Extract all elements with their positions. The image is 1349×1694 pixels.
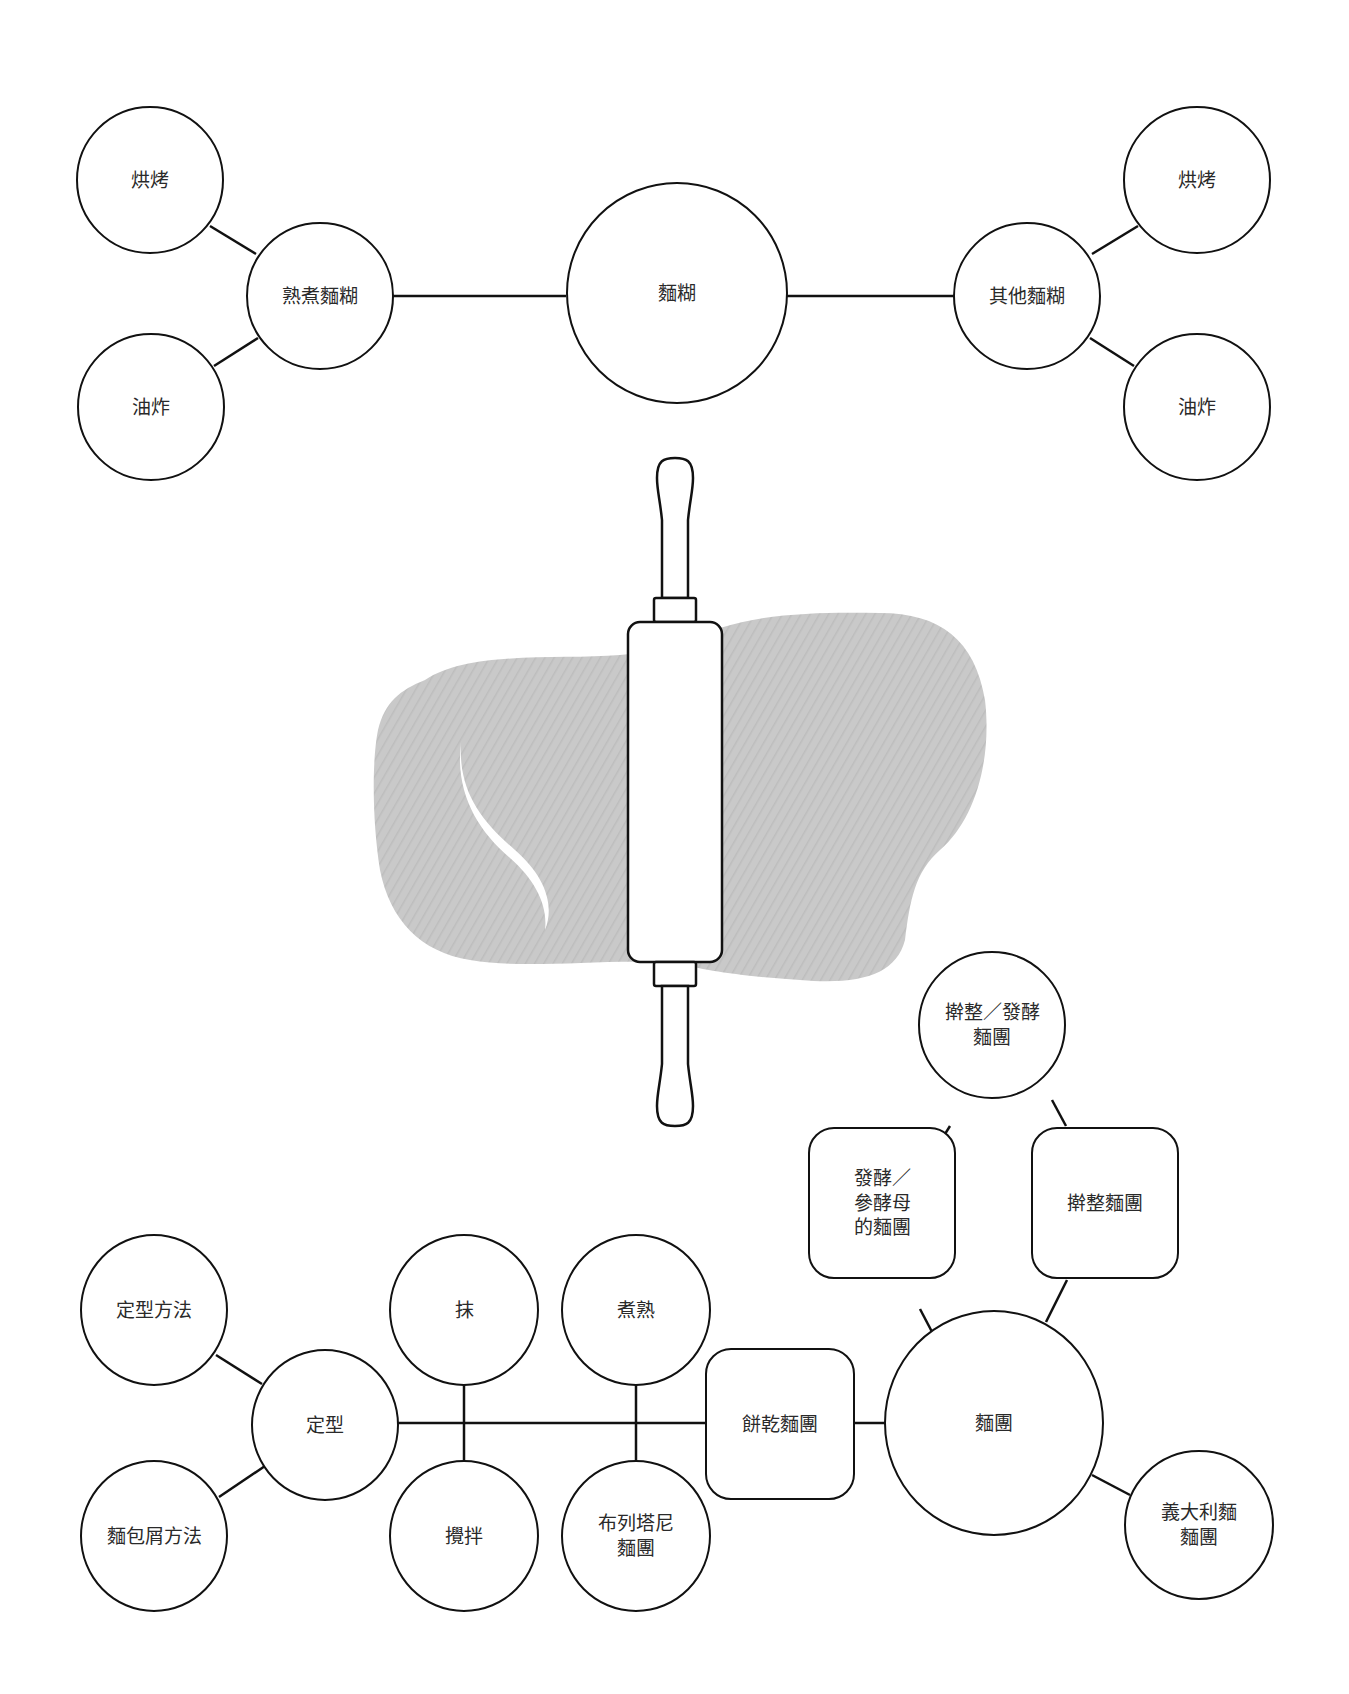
bottom-handle <box>657 986 693 1126</box>
node-fry-left: 油炸 <box>77 333 225 481</box>
line-knead-to-dough <box>1046 1280 1067 1322</box>
bottom-collar <box>654 962 696 986</box>
top-collar <box>654 598 696 622</box>
node-pasta-dough: 義大利麵 麵團 <box>1124 1450 1274 1600</box>
node-crumb-method: 麵包屑方法 <box>80 1460 228 1612</box>
node-rolled-dough: 擀整麵團 <box>1031 1127 1179 1279</box>
line-shape-method <box>216 1355 262 1384</box>
line-bake-left <box>210 226 256 254</box>
node-bake-right: 烘烤 <box>1123 106 1271 254</box>
node-spread: 抹 <box>389 1234 539 1386</box>
top-handle <box>657 458 693 598</box>
node-mix: 攪拌 <box>389 1460 539 1612</box>
node-batter: 麵糊 <box>566 182 788 404</box>
node-fermented-yeast-dough: 發酵／ 參酵母 的麵團 <box>808 1127 956 1279</box>
node-bake-left: 烘烤 <box>76 106 224 254</box>
line-bake-right <box>1092 226 1138 254</box>
node-breton-dough: 布列塔尼 麵團 <box>561 1460 711 1612</box>
pin-body <box>628 622 722 962</box>
line-crumb-method <box>219 1466 265 1497</box>
line-top-to-knead <box>1052 1100 1066 1126</box>
node-shape: 定型 <box>251 1349 399 1501</box>
node-cooked-batter: 熟煮麵糊 <box>246 222 394 370</box>
node-dough: 麵團 <box>884 1310 1104 1536</box>
node-cookie-dough: 餅乾麵團 <box>705 1348 855 1500</box>
line-fry-left <box>214 338 258 366</box>
diagram-canvas: 麵糊 熟煮麵糊 烘烤 油炸 其他麵糊 烘烤 油炸 擀整／發酵 麵團 發酵／ 參酵… <box>0 0 1349 1694</box>
node-cook: 煮熟 <box>561 1234 711 1386</box>
node-knead-ferment-dough: 擀整／發酵 麵團 <box>918 951 1066 1099</box>
node-other-batter: 其他麵糊 <box>953 222 1101 370</box>
node-shape-method: 定型方法 <box>80 1234 228 1386</box>
line-fry-right <box>1090 338 1134 366</box>
rolling-pin <box>628 458 722 1126</box>
node-fry-right: 油炸 <box>1123 333 1271 481</box>
line-dough-to-pasta <box>1092 1475 1130 1495</box>
